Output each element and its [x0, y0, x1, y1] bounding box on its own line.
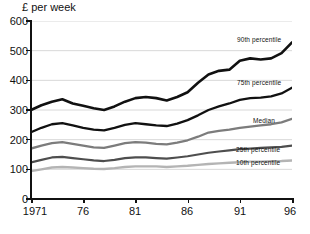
x-tick-mark	[240, 198, 242, 203]
y-tick-mark	[26, 109, 31, 111]
chart-canvas	[31, 21, 292, 199]
x-tick-1986: 86	[181, 205, 193, 217]
series-line-90th-percentile	[31, 42, 292, 110]
y-tick-300: 300	[2, 104, 28, 116]
label-median: Median	[253, 117, 275, 124]
y-tick-mark	[26, 20, 31, 22]
y-tick-mark	[26, 198, 31, 200]
x-tick-1996: 96	[284, 205, 296, 217]
x-tick-mark	[83, 198, 85, 203]
x-tick-1976: 76	[77, 205, 89, 217]
y-tick-mark	[26, 80, 31, 82]
chart-axis-title: £ per week	[22, 1, 76, 13]
y-axis-labels: 600 500 400 300 200 100 0	[0, 0, 28, 234]
y-tick-mark	[26, 50, 31, 52]
line-chart: £ per week 600 500 400 300 200 100 0 197…	[0, 0, 310, 234]
x-tick-1981: 81	[129, 205, 141, 217]
y-tick-600: 600	[2, 15, 28, 27]
label-90th-percentile: 90th percentile	[237, 36, 281, 43]
label-25th-percentile: 25th percentile	[236, 146, 280, 153]
y-tick-mark	[26, 169, 31, 171]
plot-area	[31, 21, 292, 199]
x-tick-1991: 91	[234, 205, 246, 217]
x-tick-mark	[292, 198, 294, 203]
x-tick-mark	[31, 198, 33, 203]
label-75th-percentile: 75th percentile	[237, 79, 281, 86]
y-tick-mark	[26, 139, 31, 141]
y-tick-0: 0	[2, 193, 28, 205]
label-10th-percentile: 10th percentile	[236, 159, 280, 166]
y-tick-500: 500	[2, 45, 28, 57]
y-tick-200: 200	[2, 134, 28, 146]
x-tick-mark	[188, 198, 190, 203]
x-tick-1971: 1971	[23, 205, 47, 217]
x-tick-mark	[135, 198, 137, 203]
x-axis-line	[30, 198, 292, 200]
y-tick-400: 400	[2, 74, 28, 86]
y-tick-100: 100	[2, 163, 28, 175]
